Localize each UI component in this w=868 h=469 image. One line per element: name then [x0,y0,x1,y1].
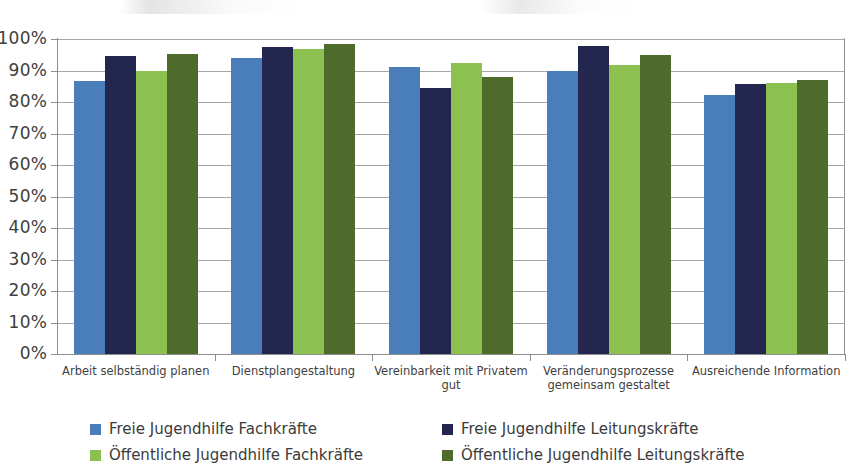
x-axis-tick [845,354,846,361]
y-axis-tick-label: 50% [0,188,47,205]
y-axis-tick [51,260,58,261]
y-axis-tick-label: 70% [0,125,47,142]
x-axis-tick-label: Vereinbarkeit mit Privatem gut [372,364,530,392]
legend-label: Öffentliche Jugendhilfe Fachkräfte [109,446,363,464]
bar [262,47,293,354]
bar [766,83,797,354]
bar [640,55,671,354]
bar-group [389,39,513,354]
legend-item[interactable]: Öffentliche Jugendhilfe Leitungskräfte [442,446,860,464]
bar [231,58,262,354]
bar [735,84,766,354]
x-axis-tick [372,354,373,361]
plot-area [57,39,845,354]
bar-group [74,39,198,354]
bar [451,63,482,354]
bar [704,95,735,354]
y-axis-tick-label: 20% [0,282,47,299]
bar [293,49,324,354]
bar [167,54,198,354]
legend-label: Öffentliche Jugendhilfe Leitungskräfte [461,446,745,464]
y-axis-tick-label: 30% [0,251,47,268]
y-axis-tick-label: 90% [0,62,47,79]
x-axis-tick-label: Ausreichende Information [687,364,845,378]
legend-item[interactable]: Freie Jugendhilfe Leitungskräfte [442,420,860,438]
y-axis-tick [51,197,58,198]
bar [578,46,609,354]
chart-legend: Freie Jugendhilfe FachkräfteFreie Jugend… [90,416,860,468]
x-axis-tick [215,354,216,361]
bar-group [231,39,355,354]
y-axis-tick [51,71,58,72]
legend-swatch-icon [442,424,453,435]
y-axis-tick-label: 40% [0,219,47,236]
bar [105,56,136,354]
bar [482,77,513,354]
y-axis-tick [51,354,58,355]
y-axis-tick-label: 100% [0,30,47,47]
legend-swatch-icon [90,424,101,435]
bar [74,81,105,354]
x-axis-tick-label: Arbeit selbständig planen [57,364,215,378]
x-axis-tick-label: Dienstplangestaltung [215,364,373,378]
x-axis-tick-label: Veränderungsprozesse gemeinsam gestaltet [530,364,688,392]
legend-item[interactable]: Freie Jugendhilfe Fachkräfte [90,420,442,438]
y-axis-tick [51,291,58,292]
bar-group [704,39,828,354]
y-axis-tick [51,228,58,229]
legend-swatch-icon [90,450,101,461]
legend-item[interactable]: Öffentliche Jugendhilfe Fachkräfte [90,446,442,464]
x-axis-tick [687,354,688,361]
bar-chart: 0%10%20%30%40%50%60%70%80%90%100% Arbeit… [0,0,868,469]
y-axis-tick [51,102,58,103]
bar [797,80,828,354]
y-axis-tick [51,165,58,166]
bar [547,71,578,354]
y-axis-tick-label: 80% [0,93,47,110]
scan-artifact [0,0,868,14]
y-axis-tick [51,323,58,324]
bar-group [547,39,671,354]
y-axis-tick-label: 0% [0,345,47,362]
bar [420,88,451,354]
x-axis-tick [530,354,531,361]
x-axis-line [57,354,845,355]
legend-swatch-icon [442,450,453,461]
y-axis-tick [51,39,58,40]
y-axis-tick [51,134,58,135]
bar [609,65,640,354]
legend-label: Freie Jugendhilfe Leitungskräfte [461,420,699,438]
bar [389,67,420,354]
legend-label: Freie Jugendhilfe Fachkräfte [109,420,317,438]
y-axis-tick-label: 10% [0,314,47,331]
y-axis-tick-label: 60% [0,156,47,173]
bar [324,44,355,354]
bar [136,71,167,355]
